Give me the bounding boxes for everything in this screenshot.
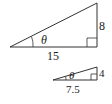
angle-label: θ xyxy=(41,33,47,47)
angle-arc xyxy=(66,76,67,80)
similar-triangles-diagram: θ 15 8 θ 7.5 4 xyxy=(0,0,112,104)
base-label: 15 xyxy=(47,49,59,63)
angle-arc xyxy=(32,37,34,48)
height-label: 8 xyxy=(99,19,105,33)
height-label: 4 xyxy=(99,67,105,79)
angle-label: θ xyxy=(69,69,75,81)
large-triangle: θ 15 8 xyxy=(10,3,105,63)
right-angle-marker xyxy=(91,74,97,80)
small-triangle: θ 7.5 4 xyxy=(53,67,105,95)
right-angle-marker xyxy=(87,38,97,47)
base-label: 7.5 xyxy=(66,83,80,95)
